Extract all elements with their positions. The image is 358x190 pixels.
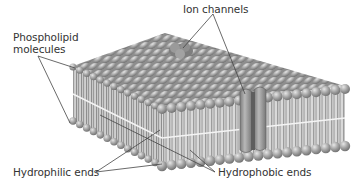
phospholipid-label: Phospholipid molecules xyxy=(13,31,79,55)
ion-channel-front xyxy=(240,87,266,153)
membrane-diagram: Phospholipid molecules Ion channels Hydr… xyxy=(0,0,358,190)
hydrophobic-label: Hydrophobic ends xyxy=(218,166,311,178)
phospholipid-label-line2: molecules xyxy=(13,43,79,55)
bilayer-illustration xyxy=(0,0,358,190)
ion-channels-label: Ion channels xyxy=(183,3,248,15)
hydrophilic-label: Hydrophilic ends xyxy=(13,166,99,178)
phospholipid-label-line1: Phospholipid xyxy=(13,31,79,43)
